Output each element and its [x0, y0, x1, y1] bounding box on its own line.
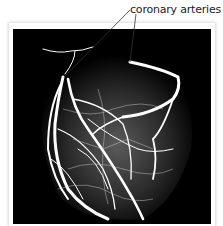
leader-line-right: [130, 14, 136, 62]
leader-line-left: [65, 10, 130, 76]
coronary-arteries-label: coronary arteries: [130, 3, 221, 16]
leader-lines: [0, 0, 223, 226]
